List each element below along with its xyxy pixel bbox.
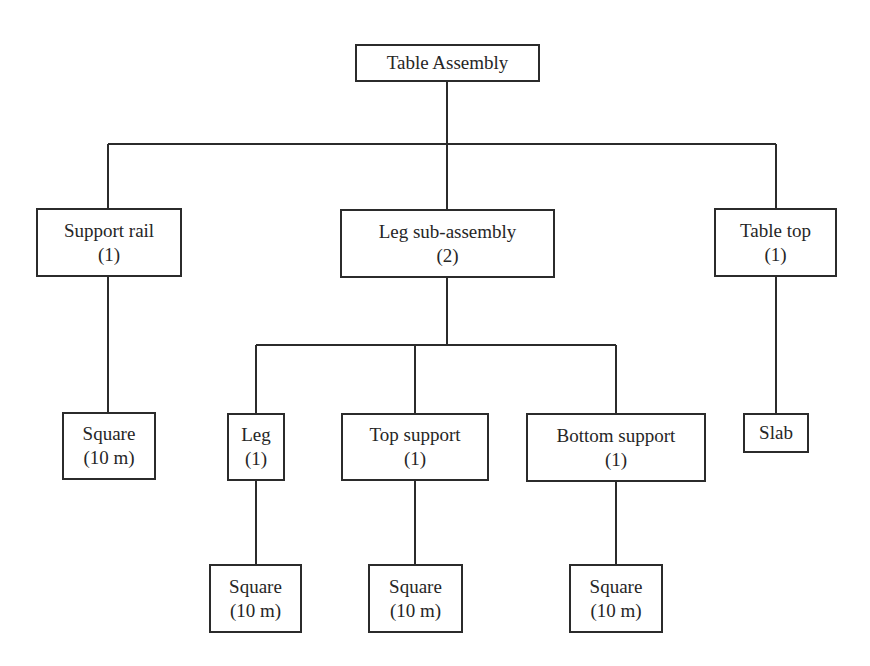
node-quantity: (1) [764,243,786,267]
node-label: Square [389,575,442,599]
node-label: Table Assembly [387,51,509,75]
node-label: Square [83,422,136,446]
node-quantity: (1) [404,447,426,471]
node-top-support-square: Square (10 m) [368,564,463,633]
node-quantity: (10 m) [590,599,641,623]
node-quantity: (10 m) [390,599,441,623]
node-leg: Leg (1) [227,413,285,481]
node-quantity: (1) [245,447,267,471]
node-support-rail: Support rail (1) [36,208,182,277]
node-slab: Slab [743,413,809,453]
node-leg-square: Square (10 m) [209,564,302,633]
node-table-top: Table top (1) [714,208,837,277]
node-label: Slab [759,421,793,445]
bill-of-materials-tree: Table Assembly Support rail (1) Leg sub-… [0,0,870,666]
node-label: Leg [241,423,271,447]
node-label: Leg sub-assembly [379,220,517,244]
node-quantity: (10 m) [83,446,134,470]
node-support-rail-square: Square (10 m) [62,412,156,480]
node-label: Bottom support [557,424,676,448]
node-quantity: (10 m) [230,599,281,623]
node-bottom-support-square: Square (10 m) [569,564,663,633]
node-table-assembly: Table Assembly [355,44,540,82]
node-label: Square [229,575,282,599]
node-quantity: (2) [436,244,458,268]
node-label: Top support [369,423,460,447]
node-quantity: (1) [98,243,120,267]
node-bottom-support: Bottom support (1) [526,413,706,482]
node-label: Support rail [64,219,154,243]
node-label: Table top [740,219,811,243]
node-quantity: (1) [605,448,627,472]
node-top-support: Top support (1) [341,413,489,481]
node-leg-sub-assembly: Leg sub-assembly (2) [340,209,555,278]
node-label: Square [590,575,643,599]
